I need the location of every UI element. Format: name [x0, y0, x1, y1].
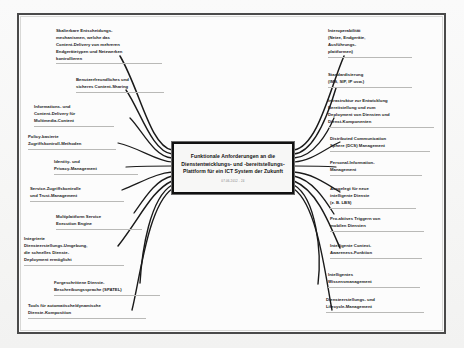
branch-label-multiplattform-execution-engine[interactable]: Multiplattform Service Execution Engine — [56, 214, 142, 230]
branch-label-multimedia-content-delivery[interactable]: Informations- und Content-Delivery für M… — [34, 104, 114, 127]
branch-label-pro-aktives-triggern[interactable]: Pro-aktives Triggern von mobilen Dienste… — [330, 216, 424, 232]
branch-label-infrastruktur-entwicklung-deployment[interactable]: Infrastruktur zur Entwicklung Bereitstel… — [328, 98, 434, 128]
branch-label-content-sharing[interactable]: Benutzerfreundliches und sicheres Conten… — [76, 77, 164, 93]
branch-label-dcs-management[interactable]: Distributed Communication Sphere (DCS) M… — [330, 136, 430, 152]
branch-label-policy-zugriffskontrolle[interactable]: Policy-basierte Zugriffskontroll-Methode… — [28, 134, 116, 150]
branch-label-interoperabilitaet[interactable]: Interoperabilität (Netze, Endgeräte, Aus… — [328, 28, 412, 58]
branch-label-identity-privacy-management[interactable]: Identity- und Privacy-Management — [54, 159, 138, 175]
branch-label-dienste-komposition-tools[interactable]: Tools für automatische/dynamische Dienst… — [28, 303, 146, 319]
central-node-title: Funktionale Anforderungen an die Dienste… — [174, 153, 292, 177]
branch-label-wissensmanagement[interactable]: Intelligentes Wissensmanagement — [328, 272, 420, 288]
branch-label-lifecycle-management[interactable]: Diensteerstellungs- und Lifecycle-Manage… — [326, 297, 424, 313]
branch-label-service-zugriffskontrolle[interactable]: Service-Zugriffskontrolle und Trust-Mana… — [30, 186, 124, 202]
branch-label-context-awareness[interactable]: Intelligente Context- Awareness-Funktion — [330, 243, 422, 259]
branch-label-personal-information-management[interactable]: Personal-Information- Management — [330, 160, 422, 176]
mindmap-page: Funktionale Anforderungen an die Dienste… — [0, 0, 464, 348]
central-node[interactable]: Funktionale Anforderungen an die Dienste… — [172, 142, 294, 194]
branch-label-integrierte-diensteerstellungs-umgebung[interactable]: Integrierte Diensteerstellungs-Umgebung,… — [24, 236, 124, 266]
branch-label-standardisierung[interactable]: Standardisierung (IMS, SIP, IP usw.) — [328, 72, 412, 88]
branch-label-dienste-beschreibungssprache[interactable]: Forgeschrittene Dienste- Beschreibungssp… — [54, 280, 160, 296]
branch-label-intelligente-dienste-lbs[interactable]: Ausgelegt für neue intelligente Dienste … — [330, 186, 416, 209]
central-node-subtitle: 07.06.2012 - 24 — [221, 179, 244, 183]
branch-label-skalierbare-entscheidungsmechanismen[interactable]: Skalierbare Entscheidungs- mechanismen, … — [56, 28, 162, 64]
